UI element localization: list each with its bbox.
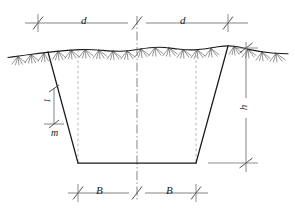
trench-outline-group (48, 46, 228, 163)
bottom-dimension-group (68, 184, 208, 202)
diagram-canvas: d d B B h 1 m (0, 0, 295, 222)
top-dimension-group (25, 14, 248, 32)
dimension-label-d-left: d (81, 15, 87, 26)
dimension-label-B-left: B (96, 185, 103, 196)
slope-label-run-m: m (51, 128, 58, 138)
dimension-label-h-depth: h (238, 105, 249, 111)
trench-left-slope (48, 52, 78, 163)
slope-ratio-group (44, 85, 64, 128)
trench-cross-section-figure (0, 0, 295, 222)
dimension-label-d-right: d (180, 15, 186, 26)
depth-dimension-group (208, 42, 258, 172)
slope-label-rise-one: 1 (43, 98, 52, 103)
dimension-label-B-right: B (166, 185, 173, 196)
trench-right-slope (196, 46, 228, 163)
